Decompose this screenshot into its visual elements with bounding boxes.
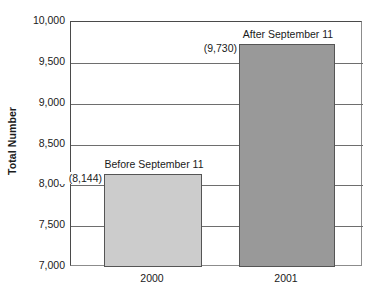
bar-annotation: After September 11 (216, 28, 360, 40)
y-axis-tick-label: 7,500 (9, 219, 65, 230)
y-axis-tick-label: 10,000 (9, 15, 65, 26)
bar-value-label: (8,144) (59, 172, 103, 184)
y-axis-tick-label: 8,000 (9, 178, 65, 189)
y-axis-tick-label: 8,500 (9, 138, 65, 149)
bar-2001 (239, 44, 335, 267)
bar-2000 (104, 174, 202, 267)
bar-value-label: (9,730) (194, 42, 238, 54)
y-axis-tick-label: 7,000 (9, 260, 65, 271)
bar-chart: Total Number 10,0009,5009,0008,5008,0007… (0, 0, 376, 299)
y-axis-tick-label: 9,500 (9, 56, 65, 67)
plot-area (70, 21, 362, 266)
y-axis-tick-label: 9,000 (9, 97, 65, 108)
bar-annotation: Before September 11 (82, 158, 226, 170)
x-axis-tick-label: 2000 (103, 272, 201, 284)
x-axis-tick-label: 2001 (238, 272, 334, 284)
